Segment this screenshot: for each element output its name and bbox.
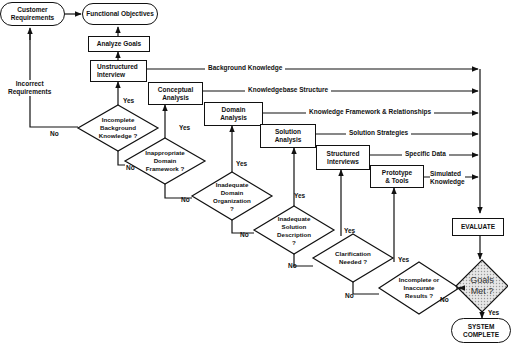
no-label: No bbox=[181, 196, 190, 204]
output-knowledge-framework: Knowledge Framework & Relationships bbox=[306, 108, 434, 116]
node-label: Prototype & Tools bbox=[382, 169, 412, 185]
solution-analysis-box: Solution Analysis bbox=[260, 124, 316, 148]
decision-inadequate-solution: Inadequate Solution Description ? bbox=[277, 215, 311, 247]
node-label: Functional Objectives bbox=[86, 10, 154, 18]
decision-goals-met: Goals Met ? bbox=[470, 275, 494, 297]
analyze-goals-box: Analyze Goals bbox=[88, 36, 150, 52]
yes-label: Yes bbox=[398, 256, 409, 264]
node-label: EVALUATE bbox=[461, 223, 495, 231]
output-solution-strategies: Solution Strategies bbox=[346, 129, 411, 137]
system-complete-node: SYSTEM COMPLETE bbox=[451, 318, 511, 343]
evaluate-box: EVALUATE bbox=[452, 218, 504, 236]
node-label: Unstructured Interview bbox=[97, 63, 138, 79]
yes-label: Yes bbox=[123, 97, 134, 105]
yes-label: Yes bbox=[488, 309, 499, 317]
decision-inadequate-domain-organization: Inadequate Domain Organization ? bbox=[213, 181, 251, 213]
node-label: Analyze Goals bbox=[97, 40, 141, 48]
yes-label: Yes bbox=[179, 124, 190, 132]
node-label: Customer Requirements bbox=[11, 6, 54, 22]
output-knowledgebase-structure: Knowledgebase Structure bbox=[245, 86, 331, 94]
yes-label: Yes bbox=[344, 227, 355, 235]
output-specific-data: Specific Data bbox=[402, 150, 449, 158]
no-label: No bbox=[345, 292, 354, 300]
node-label: Conceptual Analysis bbox=[158, 86, 193, 102]
no-label: No bbox=[50, 130, 59, 138]
domain-analysis-box: Domain Analysis bbox=[204, 102, 263, 126]
decision-inappropriate-domain: Inappropriate Domain Framework ? bbox=[145, 149, 185, 173]
node-label: Domain Analysis bbox=[220, 106, 247, 122]
prototype-tools-box: Prototype & Tools bbox=[370, 165, 424, 188]
yes-label: Yes bbox=[236, 160, 247, 168]
output-simulated-knowledge: Simulated Knowledge bbox=[430, 170, 465, 186]
incorrect-requirements-label: Incorrect Requirements bbox=[8, 80, 51, 96]
node-label: Structured Interviews bbox=[327, 150, 360, 166]
unstructured-interview-box: Unstructured Interview bbox=[90, 60, 147, 82]
functional-objectives-node: Functional Objectives bbox=[82, 3, 158, 25]
no-label: No bbox=[126, 164, 135, 172]
node-label: Solution Analysis bbox=[275, 128, 302, 144]
customer-requirements-node: Customer Requirements bbox=[0, 2, 65, 26]
no-label: No bbox=[288, 262, 297, 270]
decision-clarification-needed: Clarification Needed ? bbox=[335, 250, 371, 266]
no-label: No bbox=[240, 231, 249, 239]
conceptual-analysis-box: Conceptual Analysis bbox=[148, 82, 203, 105]
output-background-knowledge: Background Knowledge bbox=[205, 64, 285, 72]
structured-interviews-box: Structured Interviews bbox=[316, 145, 370, 170]
yes-label: Yes bbox=[294, 192, 305, 200]
decision-incomplete-results: Incomplete or Inaccurate Results ? bbox=[399, 276, 440, 300]
node-label: SYSTEM COMPLETE bbox=[463, 323, 499, 339]
decision-incomplete-background: Incomplete Background Knowledge ? bbox=[99, 116, 138, 140]
no-label: No bbox=[440, 296, 449, 304]
